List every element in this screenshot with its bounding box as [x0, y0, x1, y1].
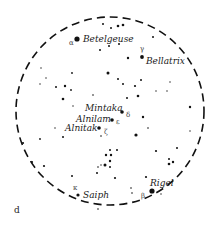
star-dot — [96, 172, 98, 174]
panel-label: d — [14, 205, 20, 215]
star-dot — [39, 83, 40, 84]
star-dot — [168, 158, 170, 160]
star-dot — [134, 133, 137, 136]
star-dot — [71, 72, 73, 74]
star-dot — [108, 45, 110, 47]
star-dot — [62, 136, 64, 138]
star-dot — [117, 25, 120, 28]
star-betelgeuse: Betelgeuseα — [69, 34, 134, 47]
greek-letter-label: κ — [73, 184, 78, 192]
star-dot — [152, 36, 154, 38]
star-dot — [147, 127, 149, 129]
star-dot — [109, 166, 111, 168]
star-alnitak: Alnitakζ — [64, 123, 108, 136]
star-dot — [122, 24, 125, 27]
greek-letter-label: ε — [116, 118, 120, 126]
named-stars: BetelgeuseαBellatrixγMintakaδAlnilamεAln… — [64, 34, 185, 200]
star-dot — [97, 208, 99, 210]
star-dot — [39, 138, 41, 140]
star-dot — [130, 187, 132, 189]
greek-letter-label: β — [141, 192, 145, 200]
star-bellatrix: Bellatrixγ — [140, 45, 185, 66]
star-dot — [31, 161, 33, 163]
star-dot — [176, 147, 178, 149]
star-dot — [99, 49, 101, 51]
star-dot — [92, 94, 94, 96]
greek-letter-label: α — [69, 39, 74, 47]
star-dot — [109, 160, 111, 162]
star-dot — [145, 176, 147, 178]
star-dot — [122, 83, 124, 85]
star-dot — [160, 193, 161, 194]
star-dot — [107, 72, 110, 75]
star-dot — [189, 130, 190, 131]
star-dot — [102, 23, 104, 25]
star-dot — [45, 77, 46, 78]
star-dot — [64, 85, 66, 87]
star-dot — [43, 165, 45, 167]
greek-letter-label: ζ — [104, 128, 108, 136]
orion-star-chart: BetelgeuseαBellatrixγMintakaδAlnilamεAln… — [0, 0, 214, 228]
star-dot — [189, 106, 191, 108]
star-marker — [74, 36, 79, 41]
star-name-label: Rigel — [149, 178, 174, 188]
star-dot — [172, 161, 174, 163]
star-dot — [142, 116, 144, 118]
star-dot — [70, 89, 72, 91]
star-dot — [40, 67, 41, 68]
star-marker — [149, 188, 154, 193]
star-marker — [97, 126, 101, 130]
star-dot — [110, 27, 112, 29]
star-dot — [155, 90, 156, 91]
star-name-label: Alnitak — [64, 123, 98, 133]
star-dot — [131, 192, 133, 194]
star-marker — [76, 193, 79, 196]
star-dot — [114, 177, 116, 179]
star-dot — [105, 154, 107, 156]
star-dot — [62, 98, 65, 101]
star-marker — [140, 55, 144, 59]
star-name-label: Bellatrix — [145, 56, 185, 66]
star-dot — [109, 149, 111, 151]
star-dot — [126, 97, 128, 99]
star-dot — [97, 166, 99, 168]
star-dot — [134, 85, 136, 87]
star-rigel: Rigelβ — [141, 178, 174, 200]
star-name-label: Saiph — [83, 190, 109, 200]
star-dot — [168, 163, 171, 166]
star-dot — [137, 95, 140, 98]
star-dot — [100, 164, 101, 165]
star-dot — [104, 164, 107, 167]
star-saiph: Saiphκ — [73, 184, 109, 200]
star-dot — [169, 81, 170, 82]
star-name-label: Mintaka — [84, 103, 123, 113]
star-dot — [155, 150, 157, 152]
star-dot — [22, 142, 24, 144]
star-dot — [55, 86, 57, 88]
greek-letter-label: γ — [140, 45, 144, 53]
greek-letter-label: δ — [126, 111, 130, 119]
star-dot — [116, 149, 118, 151]
star-dot — [54, 127, 55, 128]
star-dot — [72, 105, 73, 106]
star-dot — [127, 57, 129, 59]
star-name-label: Betelgeuse — [82, 34, 134, 44]
star-dot — [110, 154, 112, 156]
star-dot — [100, 135, 102, 137]
star-dot — [166, 90, 167, 91]
star-dot — [117, 78, 119, 80]
star-dot — [71, 175, 73, 177]
star-dot — [140, 79, 142, 81]
